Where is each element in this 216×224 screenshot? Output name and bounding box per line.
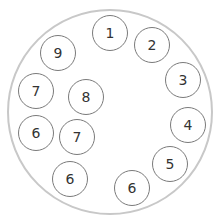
number-node: 8 [68, 79, 104, 115]
number-node: 6 [18, 115, 54, 151]
number-node: 4 [170, 107, 206, 143]
number-node: 7 [18, 73, 54, 109]
number-node: 1 [92, 15, 128, 51]
number-node: 5 [152, 146, 188, 182]
number-node: 3 [165, 62, 201, 98]
number-node: 6 [52, 161, 88, 197]
number-node: 7 [59, 119, 95, 155]
number-node: 9 [40, 35, 76, 71]
number-node: 6 [114, 170, 150, 206]
number-node: 2 [134, 27, 170, 63]
